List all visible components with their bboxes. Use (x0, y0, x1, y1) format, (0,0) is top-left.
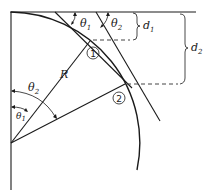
radius-line-1 (11, 41, 90, 143)
d2-label: d2 (191, 41, 203, 56)
d1-label: d1 (143, 19, 155, 34)
theta1-left-label: θ1 (16, 111, 26, 123)
point-2-label: 2 (116, 94, 122, 104)
arrowhead-icon (73, 12, 77, 16)
brace-d2 (180, 14, 188, 84)
theta1-top-label: θ1 (80, 17, 91, 32)
geometry-diagram: 1 2 R θ1 θ2 θ2 θ1 d1 d2 (0, 0, 214, 196)
theta2-top-label: θ2 (111, 17, 123, 32)
arrowhead-icon (11, 89, 15, 93)
arrowhead-icon (106, 12, 110, 16)
brace-d1 (133, 13, 140, 40)
point-1-label: 1 (90, 49, 96, 59)
arrowhead-icon (24, 108, 28, 112)
theta2-left-label: θ2 (28, 81, 40, 96)
radius-label: R (59, 68, 68, 81)
arrowhead-icon (11, 105, 15, 109)
